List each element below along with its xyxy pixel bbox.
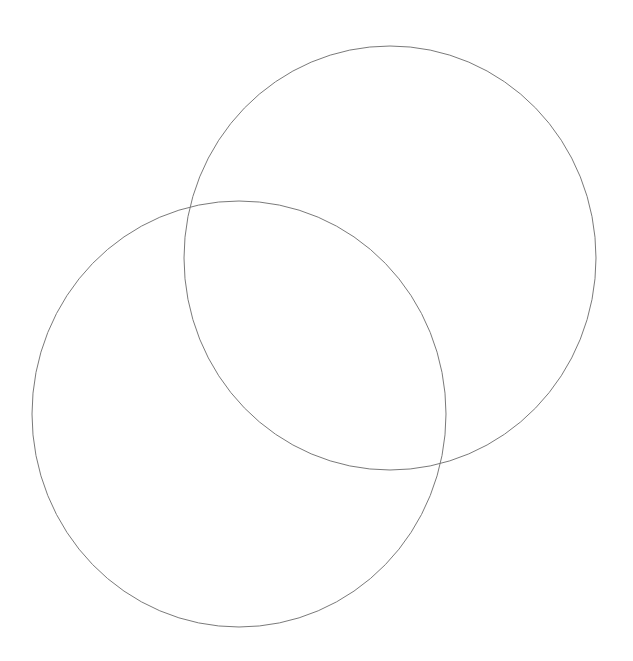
venn-diagram — [0, 0, 633, 661]
venn-diagram-canvas — [0, 0, 633, 661]
circle-lower-left — [32, 201, 446, 627]
circle-upper-right — [184, 46, 596, 470]
